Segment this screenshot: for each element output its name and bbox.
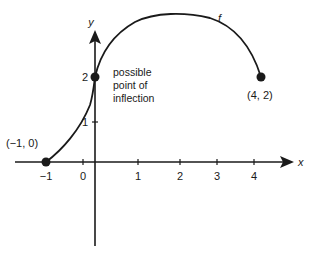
point-start-label: (−1, 0)	[6, 137, 38, 149]
y-tick-label: 2	[82, 71, 88, 83]
y-axis: y 1 2	[82, 16, 101, 246]
x-axis-label: x	[297, 156, 304, 168]
x-tick-label: 4	[251, 170, 257, 182]
annotation-line-1: possible	[113, 66, 152, 78]
x-tick-label: 2	[177, 170, 183, 182]
x-tick-label: 1	[135, 170, 141, 182]
point-inflection	[91, 73, 100, 82]
function-curve	[46, 14, 261, 162]
y-axis-label: y	[87, 16, 95, 28]
function-graph: x −1 0 1 2 3 4 y 1 2 f (−1, 0) (4, 2) po…	[0, 0, 313, 260]
annotation-line-3: inflection	[113, 92, 155, 104]
point-end	[257, 73, 266, 82]
inflection-annotation: possible point of inflection	[113, 66, 155, 104]
annotation-line-2: point of	[113, 79, 148, 91]
x-tick-label: 0	[80, 170, 86, 182]
point-start	[42, 158, 51, 167]
x-tick-label: 3	[214, 170, 220, 182]
x-axis: x −1 0 1 2 3 4	[15, 156, 304, 182]
x-tick-label: −1	[40, 170, 53, 182]
point-end-label: (4, 2)	[247, 89, 273, 101]
